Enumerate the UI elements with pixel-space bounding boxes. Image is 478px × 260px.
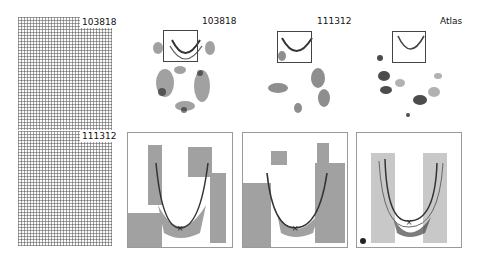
zoom-region-box-111312 [277, 31, 312, 63]
zoom-region-box-atlas [392, 31, 426, 63]
deformation-grid-103818 [18, 17, 112, 130]
overview-label-103818: 103818 [200, 16, 238, 27]
grid-label-111312: 111312 [80, 131, 118, 142]
zoom-panel-103818: × [127, 132, 233, 248]
overview-label-111312: 111312 [315, 16, 353, 27]
deformation-grid-111312 [18, 131, 112, 246]
landmark-marker: × [292, 224, 299, 233]
zoom-region-box-103818 [163, 30, 198, 62]
grid-label-103818: 103818 [80, 17, 118, 28]
zoom-panel-111312: × [242, 132, 348, 248]
zoom-panel-atlas: × [356, 132, 462, 248]
overview-label-atlas: Atlas [438, 16, 464, 27]
landmark-marker: × [406, 218, 413, 227]
landmark-marker: × [177, 224, 184, 233]
